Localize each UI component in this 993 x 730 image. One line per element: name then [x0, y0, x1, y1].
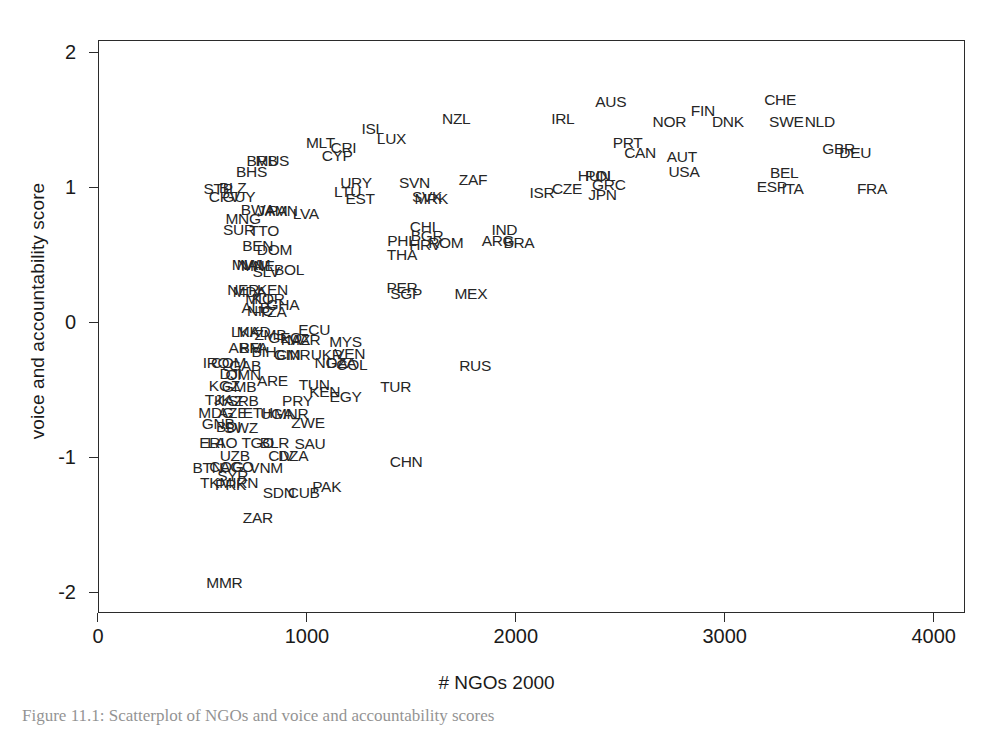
x-axis-title: # NGOs 2000 [0, 672, 993, 694]
x-tick-label: 3000 [702, 626, 747, 646]
x-tick-mark [515, 613, 516, 622]
y-tick-mark [89, 592, 98, 593]
data-point-label: ARE [257, 373, 288, 389]
data-point-label: AUS [595, 94, 626, 110]
data-point-label: NOR [653, 114, 687, 130]
data-point-label: LUX [377, 132, 406, 148]
data-point-label: DNK [712, 114, 744, 130]
data-point-label: DEU [839, 145, 871, 161]
data-point-label: LVA [293, 206, 319, 222]
data-point-label: BRA [503, 235, 534, 251]
data-point-label: NLD [805, 114, 835, 130]
x-tick-mark [724, 613, 725, 622]
x-tick-mark [933, 613, 934, 622]
scatter-plot-area: AUSCHEFINNORDNKSWENLDIRLNZLISLLUXMLTCRIC… [99, 41, 964, 612]
y-tick-label: 2 [65, 42, 76, 62]
data-point-label: TZA [258, 304, 286, 320]
x-tick-label: 0 [92, 626, 103, 646]
data-point-label: CMR [276, 347, 310, 363]
y-tick-label: 0 [65, 312, 76, 332]
data-point-label: EST [346, 191, 375, 207]
x-tick-mark [97, 613, 98, 622]
data-point-label: THA [387, 248, 417, 264]
y-tick-label: -1 [58, 447, 76, 467]
data-point-label: ZAR [243, 511, 273, 527]
data-point-label: CYP [322, 148, 353, 164]
data-point-label: ZAF [459, 172, 487, 188]
figure-root: voice and accountability score AUSCHEFIN… [0, 0, 993, 730]
y-tick-mark [89, 52, 98, 53]
data-point-label: CZE [552, 182, 582, 198]
x-tick-label: 2000 [494, 626, 539, 646]
y-tick-mark [89, 187, 98, 188]
figure-caption: Figure 11.1: Scatterplot of NGOs and voi… [22, 706, 972, 730]
data-point-label: CHN [390, 454, 423, 470]
data-point-label: MRK [414, 191, 448, 207]
data-point-label: USA [668, 164, 699, 180]
data-point-label: BOL [274, 262, 304, 278]
data-point-label: RUS [459, 358, 491, 374]
data-point-label: PAK [312, 480, 341, 496]
data-point-label: ROM [428, 235, 463, 251]
data-point-label: IRL [551, 111, 574, 127]
plot-frame: AUSCHEFINNORDNKSWENLDIRLNZLISLLUXMLTCRIC… [98, 40, 965, 613]
data-point-label: CHE [764, 93, 796, 109]
y-tick-label: 1 [65, 177, 76, 197]
data-point-label: ITA [782, 182, 804, 198]
y-tick-mark [89, 322, 98, 323]
data-point-label: ISR [529, 186, 554, 202]
data-point-label: ZWE [291, 415, 325, 431]
data-point-label: SGP [390, 287, 422, 303]
data-point-label: MEX [455, 287, 488, 303]
data-point-label: NZL [442, 111, 470, 127]
data-point-label: COL [336, 357, 367, 373]
x-tick-label: 4000 [911, 626, 956, 646]
y-tick-label: -2 [58, 582, 76, 602]
data-point-label: SWE [769, 114, 803, 130]
data-point-label: EGY [330, 389, 362, 405]
x-tick-label: 1000 [285, 626, 330, 646]
data-point-label: ECU [298, 322, 330, 338]
y-axis-title: voice and accountability score [27, 101, 49, 521]
data-point-label: JPN [588, 187, 616, 203]
data-point-label: MMR [206, 575, 242, 591]
x-tick-mark [306, 613, 307, 622]
data-point-label: FRA [857, 182, 887, 198]
data-point-label: BHS [236, 164, 267, 180]
data-point-label: IRN [232, 475, 258, 491]
data-point-label: TUR [380, 380, 411, 396]
y-tick-mark [89, 457, 98, 458]
data-point-label: CAN [624, 145, 656, 161]
